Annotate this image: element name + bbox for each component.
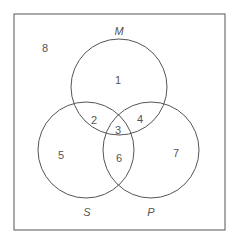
- region-1: 1: [115, 75, 121, 86]
- region-5: 5: [58, 150, 64, 161]
- region-8: 8: [42, 43, 48, 54]
- circle-s: [38, 102, 134, 198]
- region-2: 2: [91, 115, 97, 126]
- circle-m: [71, 39, 167, 135]
- set-label-p: P: [147, 207, 154, 218]
- region-7: 7: [173, 148, 179, 159]
- set-label-m: M: [114, 26, 123, 37]
- region-6: 6: [116, 153, 122, 164]
- set-label-s: S: [83, 207, 90, 218]
- circle-p: [103, 102, 199, 198]
- region-3: 3: [115, 125, 121, 136]
- region-4: 4: [137, 114, 143, 125]
